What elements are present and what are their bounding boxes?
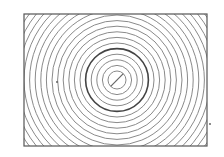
point-mark [209,123,211,125]
point-mark [56,81,58,83]
wave-rings [2,0,224,157]
frame-border [24,14,207,146]
center-diameter-line [111,74,124,87]
concentric-circles-diagram [0,0,224,157]
